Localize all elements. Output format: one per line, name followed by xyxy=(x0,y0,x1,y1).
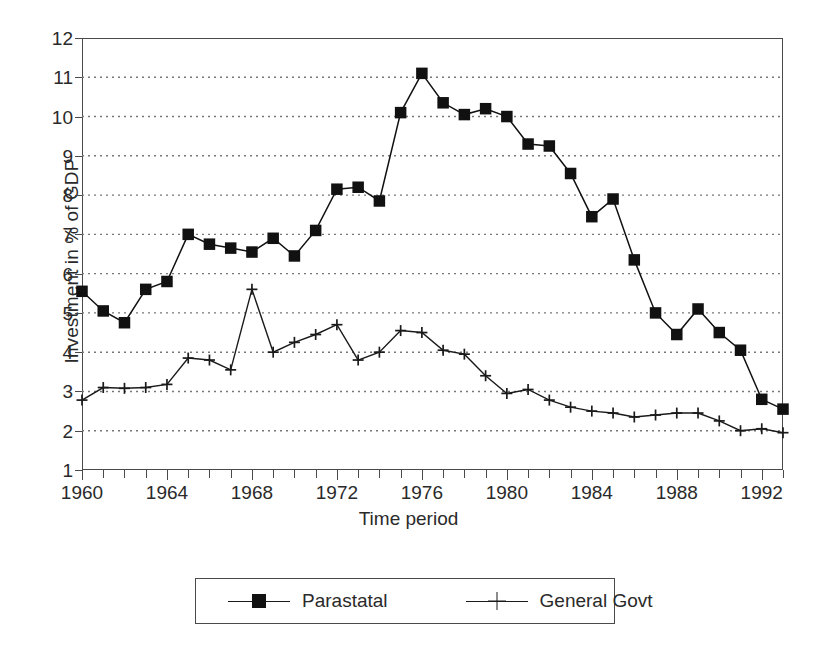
data-point-marker xyxy=(119,317,131,329)
x-axis-tick-mark xyxy=(401,470,402,478)
data-point-marker xyxy=(97,305,109,317)
x-axis-tick-mark xyxy=(146,470,147,478)
legend-item-general-govt: General Govt xyxy=(466,590,653,612)
data-point-marker xyxy=(523,384,534,395)
data-point-marker xyxy=(416,68,428,80)
x-axis-tick-mark xyxy=(294,470,295,478)
x-axis-tick-label: 1992 xyxy=(741,483,783,502)
data-point-marker xyxy=(225,242,237,254)
data-point-marker xyxy=(629,411,640,422)
data-point-marker xyxy=(608,408,619,419)
x-axis-tick-label: 1960 xyxy=(61,483,103,502)
x-axis-tick-mark xyxy=(592,470,593,480)
chart-legend: Parastatal General Govt xyxy=(195,578,615,624)
chart-svg xyxy=(82,38,783,470)
x-axis-tick-label: 1976 xyxy=(401,483,443,502)
data-point-marker xyxy=(140,284,152,296)
x-axis-tick-mark xyxy=(273,470,274,478)
y-axis-tick-mark xyxy=(75,234,82,235)
x-axis-tick-label: 1968 xyxy=(231,483,273,502)
data-point-marker xyxy=(714,327,726,339)
data-point-marker xyxy=(267,233,279,245)
y-axis-tick-mark xyxy=(75,313,82,314)
data-point-marker xyxy=(246,284,257,295)
y-axis-tick-label: 3 xyxy=(62,382,73,401)
data-point-marker xyxy=(161,276,173,288)
data-point-marker xyxy=(331,319,342,330)
x-axis-tick-mark xyxy=(252,470,253,480)
x-axis-tick-label: 1964 xyxy=(146,483,188,502)
data-point-marker xyxy=(289,250,301,262)
data-point-marker xyxy=(714,415,725,426)
filled-square-marker-icon xyxy=(228,591,290,611)
chart-figure: Investment in % of GDP 12345678910111219… xyxy=(0,0,817,654)
y-axis-tick-label: 11 xyxy=(53,68,73,87)
y-axis-tick-mark xyxy=(75,391,82,392)
data-point-marker xyxy=(182,229,194,241)
data-point-marker xyxy=(204,238,216,250)
data-point-marker xyxy=(671,408,682,419)
y-axis-tick-label: 4 xyxy=(62,343,73,362)
x-axis-tick-mark xyxy=(634,470,635,478)
x-axis-tick-mark xyxy=(103,470,104,478)
data-point-marker xyxy=(607,193,619,205)
series-line-general-govt xyxy=(82,289,783,432)
x-axis-title: Time period xyxy=(0,508,817,530)
legend-label-general-govt: General Govt xyxy=(540,590,653,612)
x-axis-tick-mark xyxy=(549,470,550,478)
plot-area: 1234567891011121960196419681972197619801… xyxy=(82,38,783,470)
data-point-marker xyxy=(310,329,321,340)
data-point-marker xyxy=(671,329,683,341)
x-axis-tick-label: 1980 xyxy=(486,483,528,502)
data-point-marker xyxy=(735,425,746,436)
y-axis-tick-label: 1 xyxy=(62,461,73,480)
x-axis-tick-mark xyxy=(677,470,678,480)
data-point-marker xyxy=(395,107,407,119)
data-point-marker xyxy=(629,254,641,266)
data-point-marker xyxy=(650,307,662,319)
data-point-marker xyxy=(544,140,556,152)
data-point-marker xyxy=(650,410,661,421)
y-axis-tick-mark xyxy=(75,156,82,157)
data-point-marker xyxy=(76,286,88,298)
x-axis-tick-label: 1984 xyxy=(571,483,613,502)
data-point-marker xyxy=(756,423,767,434)
data-point-marker xyxy=(586,211,598,223)
x-axis-tick-label: 1988 xyxy=(656,483,698,502)
data-point-marker xyxy=(246,246,258,257)
data-point-marker xyxy=(480,103,492,115)
x-axis-tick-mark xyxy=(358,470,359,478)
x-axis-tick-mark xyxy=(486,470,487,478)
y-axis-tick-label: 6 xyxy=(62,264,73,283)
data-point-marker xyxy=(756,394,768,406)
data-point-marker xyxy=(777,403,789,415)
data-point-marker xyxy=(586,406,597,417)
data-point-marker xyxy=(522,138,534,150)
y-axis-tick-mark xyxy=(75,470,82,471)
y-axis-tick-label: 2 xyxy=(62,421,73,440)
x-axis-tick-mark xyxy=(82,470,83,480)
x-axis-tick-mark xyxy=(167,470,168,480)
y-axis-tick-mark xyxy=(75,274,82,275)
data-point-marker xyxy=(374,195,386,207)
x-axis-tick-mark xyxy=(613,470,614,478)
data-point-marker xyxy=(544,395,555,406)
data-point-marker xyxy=(778,427,789,438)
data-point-marker xyxy=(353,355,364,366)
data-point-marker xyxy=(501,111,512,123)
data-point-marker xyxy=(693,408,704,419)
data-point-marker xyxy=(331,183,343,195)
x-axis-tick-mark xyxy=(231,470,232,478)
plus-marker-icon xyxy=(466,591,528,611)
y-axis-tick-mark xyxy=(75,431,82,432)
y-axis-tick-label: 5 xyxy=(62,303,73,322)
x-axis-tick-mark xyxy=(571,470,572,478)
data-point-marker xyxy=(310,225,322,237)
data-point-marker xyxy=(565,168,577,180)
x-axis-tick-mark xyxy=(507,470,508,480)
x-axis-tick-mark xyxy=(422,470,423,480)
x-axis-tick-mark xyxy=(379,470,380,478)
legend-label-parastatal: Parastatal xyxy=(302,590,388,612)
data-point-marker xyxy=(565,402,576,413)
x-axis-tick-mark xyxy=(528,470,529,478)
